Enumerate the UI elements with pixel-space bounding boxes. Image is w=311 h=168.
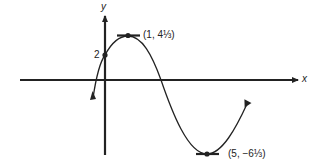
- x-axis-label: x: [302, 74, 307, 84]
- cubic-graph: [0, 0, 311, 168]
- cubic-curve: [93, 36, 247, 154]
- y-intercept-dot: [102, 52, 107, 57]
- y-intercept-label: 2: [94, 50, 100, 60]
- min-point-label: (5, −6⅓): [228, 149, 266, 159]
- curve-start-arrow-icon: [90, 91, 96, 100]
- curve-end-arrow-icon: [241, 99, 251, 109]
- max-point-dot: [125, 33, 130, 38]
- min-point-dot: [204, 151, 209, 156]
- y-axis-label: y: [101, 2, 106, 12]
- max-point-label: (1, 4⅓): [143, 30, 175, 40]
